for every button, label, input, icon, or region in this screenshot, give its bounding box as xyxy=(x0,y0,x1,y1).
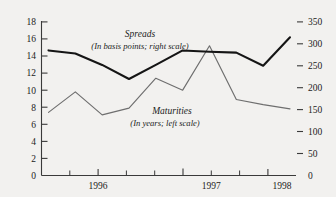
x-tick-label-1998: 1998 xyxy=(273,181,292,191)
spreads-label-subtitle: (In basis points; right scale) xyxy=(91,41,189,51)
maturities-label-subtitle: (In years; left scale) xyxy=(130,118,200,128)
chart-svg: 18 16 14 12 10 8 6 4 2 0 xyxy=(0,0,336,197)
left-tick-label: 4 xyxy=(31,137,36,147)
dual-axis-line-chart: 18 16 14 12 10 8 6 4 2 0 xyxy=(0,0,336,197)
right-tick-label: 200 xyxy=(308,83,323,93)
left-tick-label: 18 xyxy=(27,17,37,27)
right-tick-label: 350 xyxy=(308,17,323,27)
left-tick-label: 0 xyxy=(31,171,36,181)
right-tick-label: 50 xyxy=(308,149,318,159)
x-tick-label-1996: 1996 xyxy=(89,181,108,191)
left-tick-label: 2 xyxy=(31,154,36,164)
right-tick-label: 300 xyxy=(308,39,323,49)
right-tick-label: 150 xyxy=(308,105,323,115)
left-tick-label: 6 xyxy=(31,120,36,130)
x-tick-label-1997: 1997 xyxy=(202,181,221,191)
left-tick-label: 12 xyxy=(27,68,37,78)
left-tick-label: 14 xyxy=(27,51,37,61)
left-tick-label: 8 xyxy=(31,103,36,113)
right-tick-label: 250 xyxy=(308,61,323,71)
maturities-label-title: Maturities xyxy=(151,106,192,116)
left-tick-label: 16 xyxy=(27,34,37,44)
right-tick-label: 0 xyxy=(308,171,313,181)
chart-background xyxy=(0,0,336,197)
left-tick-label: 10 xyxy=(27,86,37,96)
spreads-label-title: Spreads xyxy=(125,29,156,39)
right-tick-label: 100 xyxy=(308,127,323,137)
